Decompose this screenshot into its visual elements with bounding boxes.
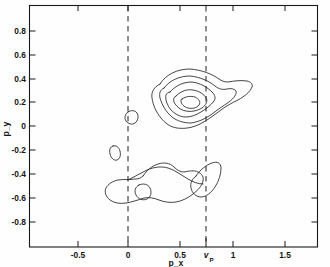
y-tick-label: -0.2 <box>12 145 27 155</box>
vp-marker-subscript: P <box>209 256 213 263</box>
x-tick-label: 0 <box>126 250 131 260</box>
y-tick-labels: 0.8 0.6 0.4 0.2 0 -0.2 -0.4 -0.6 -0.8 <box>12 26 27 227</box>
y-tick-label: 0 <box>21 121 26 131</box>
y-tick-label: -0.8 <box>12 217 27 227</box>
contour-lower-sweep <box>128 167 203 184</box>
contour-upper-lobe <box>152 69 252 128</box>
x-axis-ticks <box>78 6 285 248</box>
x-tick-label: 1.5 <box>279 250 291 260</box>
y-tick-label: 0.6 <box>14 50 26 60</box>
y-tick-label: -0.4 <box>12 169 27 179</box>
plot-frame <box>30 6 318 248</box>
contour-small-blob-upper <box>125 111 138 124</box>
y-axis-title: p_y <box>1 121 11 136</box>
contour-plot-figure: 0.8 0.6 0.4 0.2 0 -0.2 -0.4 -0.6 -0.8 p_… <box>0 0 330 267</box>
x-tick-label: 1 <box>231 250 236 260</box>
contour-small-blob-lower <box>110 146 121 160</box>
y-tick-label: 0.8 <box>14 26 26 36</box>
x-tick-label: -0.5 <box>71 250 86 260</box>
x-axis-title: p_x <box>169 258 184 267</box>
contour-lower-lobe <box>105 162 221 203</box>
y-tick-label: -0.6 <box>12 193 27 203</box>
contour-level-5-peak <box>181 96 200 108</box>
y-axis-ticks <box>30 31 318 222</box>
y-tick-label: 0.2 <box>14 97 26 107</box>
contour-lower-inner <box>135 184 151 200</box>
vp-axis-marker: v P <box>204 250 214 263</box>
scan-noise <box>61 35 300 211</box>
plot-canvas: 0.8 0.6 0.4 0.2 0 -0.2 -0.4 -0.6 -0.8 p_… <box>0 0 330 267</box>
contour-lower-outer <box>105 163 203 203</box>
y-tick-label: 0.4 <box>14 74 26 84</box>
